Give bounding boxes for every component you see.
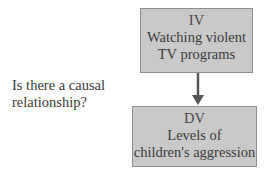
dependent-variable-box: DV Levels of children's aggression	[132, 106, 257, 167]
iv-label: IV	[141, 12, 252, 29]
dv-text-line-2: children's aggression	[133, 144, 256, 161]
dv-label: DV	[133, 110, 256, 127]
question-line-2: relationship?	[12, 94, 87, 110]
iv-text-line-1: Watching violent	[141, 29, 252, 46]
iv-text-line-2: TV programs	[141, 46, 252, 63]
causal-question: Is there a causal relationship?	[12, 77, 132, 111]
dv-text-line-1: Levels of	[133, 127, 256, 144]
question-line-1: Is there a causal	[12, 77, 105, 93]
independent-variable-box: IV Watching violent TV programs	[140, 8, 253, 73]
arrow-down-icon	[188, 73, 208, 106]
